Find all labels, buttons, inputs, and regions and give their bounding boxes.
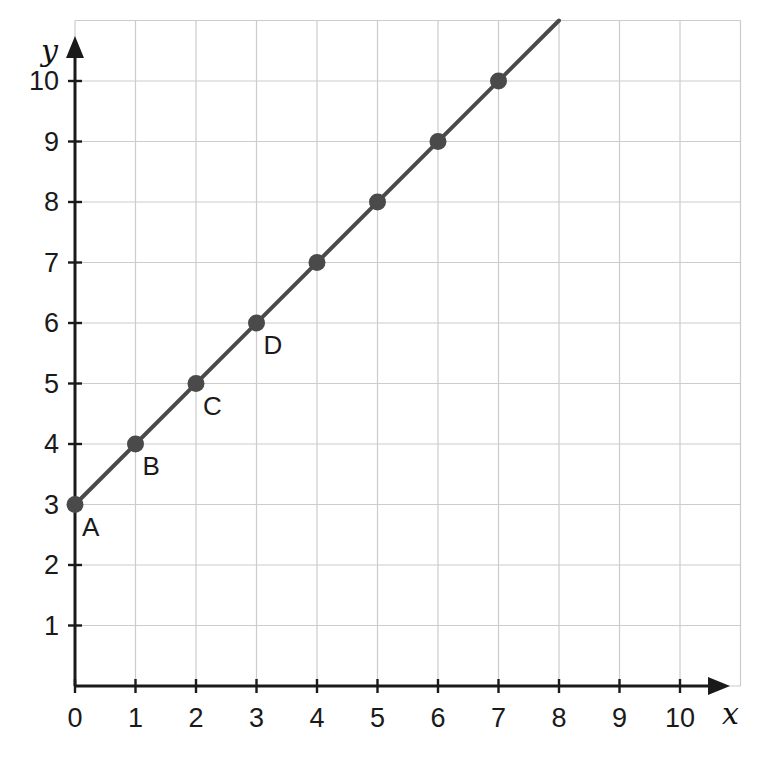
tick-marks: [68, 81, 680, 693]
y-tick-label: 1: [44, 612, 59, 639]
y-tick-label: 10: [29, 68, 59, 95]
origin-label: 0: [67, 705, 82, 732]
x-tick-label: 9: [612, 705, 627, 732]
point-label-b: B: [143, 453, 160, 479]
x-tick-label: 8: [551, 705, 566, 732]
grid-lines: [75, 21, 741, 687]
axis-lines: [66, 36, 730, 695]
x-tick-label: 2: [188, 705, 203, 732]
x-tick-label: 6: [430, 705, 445, 732]
x-tick-label: 4: [309, 705, 324, 732]
y-tick-label: 6: [44, 310, 59, 337]
y-axis-label: y: [41, 36, 58, 66]
y-tick-label: 3: [44, 491, 59, 518]
y-tick-label: 9: [44, 128, 59, 155]
y-tick-label: 7: [44, 249, 59, 276]
x-tick-label: 5: [370, 705, 385, 732]
y-tick-label: 5: [44, 370, 59, 397]
x-tick-label: 7: [491, 705, 506, 732]
y-tick-label: 2: [44, 552, 59, 579]
x-tick-label: 3: [249, 705, 264, 732]
y-tick-label: 8: [44, 189, 59, 216]
x-tick-label: 1: [128, 705, 143, 732]
point-label-d: D: [264, 332, 283, 358]
point-label-c: C: [203, 393, 222, 419]
point-label-a: A: [82, 514, 99, 540]
x-axis-label: x: [722, 699, 739, 729]
coordinate-plane-chart: 012345678910 12345678910 ABCD y x: [0, 0, 783, 761]
x-tick-label: 10: [665, 705, 695, 732]
y-tick-label: 4: [44, 431, 59, 458]
chart-plot-area: [0, 0, 783, 761]
